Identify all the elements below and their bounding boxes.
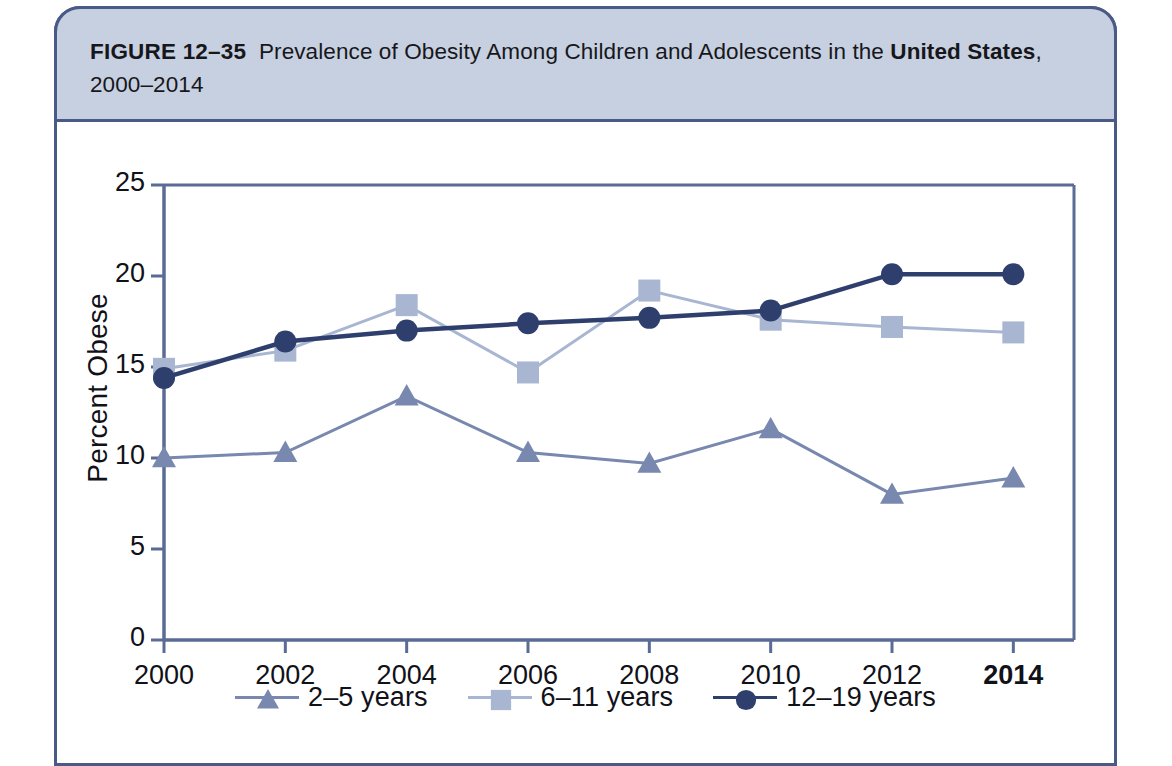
data-point-triangle: [516, 441, 540, 462]
figure-number: FIGURE 12–35: [90, 39, 246, 64]
data-point-circle: [517, 312, 539, 334]
data-point-square: [1002, 321, 1024, 343]
data-point-circle: [274, 331, 296, 353]
y-axis-tick-label: 5: [85, 531, 145, 562]
legend-marker-square-icon: [488, 687, 514, 713]
y-axis-tick-label: 20: [85, 258, 145, 289]
data-point-circle: [760, 300, 782, 322]
legend-label: 2–5 years: [308, 682, 427, 713]
legend-swatch-triangle: [235, 685, 299, 711]
y-axis-tick-label: 0: [85, 622, 145, 653]
caption-text-part2: ,: [1035, 39, 1041, 64]
data-point-square: [881, 316, 903, 338]
y-axis-tick-label: 25: [85, 167, 145, 198]
series-line-triangle: [164, 396, 1013, 494]
legend-swatch-circle: [713, 685, 777, 711]
series-triangle: [152, 384, 1025, 504]
data-point-triangle: [273, 441, 297, 462]
data-point-triangle: [1001, 466, 1025, 487]
legend-item-1[interactable]: 2–5 years: [235, 682, 427, 713]
caption-text-line2: 2000–2014: [90, 72, 204, 97]
chart-axes: [151, 185, 1074, 653]
figure-caption: FIGURE 12–35 Prevalence of Obesity Among…: [90, 35, 1080, 101]
data-point-circle: [153, 367, 175, 389]
legend-label: 6–11 years: [541, 682, 674, 713]
data-point-circle: [736, 689, 756, 709]
data-point-triangle: [395, 384, 419, 405]
caption-spacer: [246, 39, 259, 64]
line-chart-plot: [54, 122, 1117, 724]
data-point-circle: [881, 263, 903, 285]
caption-text-bold: United States: [890, 39, 1035, 64]
data-point-circle: [638, 307, 660, 329]
y-axis-tick-label: 10: [85, 440, 145, 471]
legend-item-3[interactable]: 12–19 years: [713, 682, 936, 713]
chart-series: [152, 263, 1025, 504]
chart-container: Percent Obese 0510152025 200020022004200…: [54, 122, 1117, 724]
legend-label: 12–19 years: [786, 682, 936, 713]
data-point-square: [517, 361, 539, 383]
data-point-triangle: [257, 688, 279, 708]
legend-item-2[interactable]: 6–11 years: [468, 682, 674, 713]
legend-marker-circle-icon: [733, 687, 759, 713]
data-point-square: [638, 280, 660, 302]
figure-caption-band: FIGURE 12–35 Prevalence of Obesity Among…: [54, 6, 1117, 122]
data-point-triangle: [759, 417, 783, 438]
y-axis-tick-label: 15: [85, 349, 145, 380]
caption-text-part1: Prevalence of Obesity Among Children and…: [259, 39, 890, 64]
data-point-square: [396, 294, 418, 316]
data-point-square: [490, 689, 510, 709]
data-point-circle: [1002, 263, 1024, 285]
legend-marker-triangle-icon: [255, 687, 281, 713]
chart-legend: 2–5 years6–11 years12–19 years: [54, 682, 1117, 713]
legend-swatch-square: [468, 685, 532, 711]
data-point-circle: [396, 320, 418, 342]
